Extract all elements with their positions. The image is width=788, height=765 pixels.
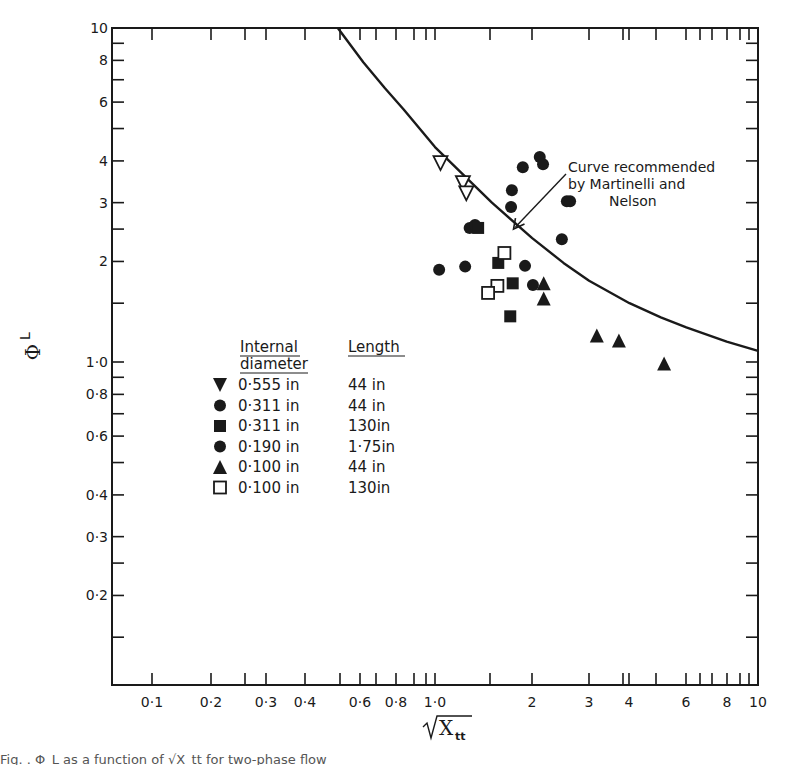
legend-marker-icon — [214, 441, 226, 453]
series-square-filled — [472, 222, 519, 322]
data-point — [507, 277, 519, 289]
series-square-open — [482, 247, 510, 299]
plot-border — [112, 28, 758, 685]
legend-diameter: 0·190 in — [238, 438, 299, 456]
x-tick-label: 6 — [682, 694, 691, 710]
data-point — [506, 184, 518, 196]
y-tick-label: 4 — [99, 153, 108, 169]
data-point — [564, 195, 576, 207]
x-tick-label: 4 — [625, 694, 634, 710]
legend-diameter: 0·555 in — [238, 376, 299, 394]
legend-marker-icon — [214, 482, 226, 494]
data-point — [537, 276, 551, 290]
legend-length: 44 in — [348, 376, 386, 394]
data-point — [482, 287, 494, 299]
y-tick-label: 0·8 — [86, 386, 108, 402]
y-tick-label: 3 — [99, 195, 108, 211]
data-point — [517, 161, 529, 173]
data-point — [657, 356, 671, 370]
y-tick-label: 0·4 — [86, 487, 108, 503]
legend-marker-icon — [213, 378, 227, 392]
legend-length: 44 in — [348, 458, 386, 476]
x-tick-label: 2 — [528, 694, 537, 710]
y-axis-title-subscript: L — [17, 332, 33, 340]
x-axis-ticks: 0·10·20·30·40·60·81·02346810 — [141, 28, 767, 710]
log-log-scatter-chart: 10864321·00·80·60·40·30·2 0·10·20·30·40·… — [0, 0, 788, 765]
legend-diameter: 0·100 in — [238, 458, 299, 476]
data-point — [590, 329, 604, 343]
x-axis-title-subscript: tt — [455, 730, 466, 743]
data-point — [472, 222, 484, 234]
data-point — [537, 158, 549, 170]
y-tick-label: 0·2 — [86, 587, 108, 603]
y-axis-ticks: 10864321·00·80·60·40·30·2 — [86, 20, 758, 637]
legend-diameter: 0·311 in — [238, 417, 299, 435]
x-tick-label: 8 — [723, 694, 732, 710]
x-tick-label: 0·2 — [200, 694, 222, 710]
y-tick-label: 2 — [99, 253, 108, 269]
y-tick-label: 0·3 — [86, 529, 108, 545]
series-triangle-down-open — [434, 156, 474, 200]
y-tick-label: 0·6 — [86, 428, 108, 444]
legend: InternaldiameterLength0·555 in44 in0·311… — [213, 338, 405, 497]
series-triangle-up-filled — [537, 276, 671, 370]
x-axis-title: X — [439, 716, 454, 740]
y-tick-label: 6 — [99, 94, 108, 110]
legend-length: 130in — [348, 417, 390, 435]
legend-header-length: Length — [348, 338, 400, 356]
x-tick-label: 1·0 — [424, 694, 446, 710]
y-tick-label: 10 — [90, 20, 108, 36]
data-point — [527, 279, 539, 291]
legend-diameter: 0·311 in — [238, 397, 299, 415]
data-point — [519, 260, 531, 272]
data-point — [433, 264, 445, 276]
x-tick-label: 0·6 — [349, 694, 371, 710]
y-axis-title: Φ — [21, 344, 45, 360]
legend-marker-icon — [214, 420, 226, 432]
data-point — [556, 233, 568, 245]
data-point — [498, 247, 510, 259]
legend-length: 44 in — [348, 397, 386, 415]
data-point — [434, 156, 448, 170]
annotation-text: Curve recommended — [568, 159, 715, 175]
legend-marker-icon — [214, 400, 226, 412]
annotation-arrow — [516, 174, 566, 227]
figure-caption: Fig. . Φ_L as a function of √X_tt for tw… — [0, 752, 788, 765]
x-tick-label: 10 — [749, 694, 767, 710]
x-tick-label: 0·3 — [255, 694, 277, 710]
annotation-text: Nelson — [609, 193, 657, 209]
x-tick-label: 0·1 — [141, 694, 163, 710]
y-tick-label: 1·0 — [86, 354, 108, 370]
legend-length: 1·75in — [348, 438, 395, 456]
data-point — [505, 201, 517, 213]
plot-frame — [112, 28, 758, 685]
legend-length: 130in — [348, 479, 390, 497]
x-tick-label: 0·4 — [294, 694, 316, 710]
legend-diameter: 0·100 in — [238, 479, 299, 497]
x-tick-label: 3 — [585, 694, 594, 710]
legend-header-diameter: Internal — [240, 338, 298, 356]
legend-marker-icon — [213, 460, 227, 474]
data-point — [459, 261, 471, 273]
data-point — [612, 333, 626, 347]
y-tick-label: 8 — [99, 52, 108, 68]
x-tick-label: 0·8 — [385, 694, 407, 710]
annotation-text: by Martinelli and — [568, 176, 685, 192]
data-point — [459, 186, 473, 200]
data-point — [537, 291, 551, 305]
data-point — [504, 310, 516, 322]
legend-header-diameter-2: diameter — [240, 355, 309, 373]
